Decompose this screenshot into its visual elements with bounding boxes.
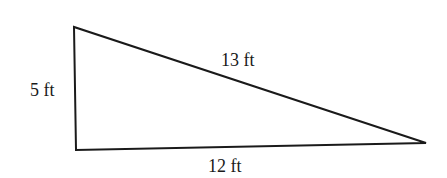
triangle-diagram: 5 ft 13 ft 12 ft <box>0 0 447 178</box>
right-triangle <box>74 27 426 150</box>
label-vertical-side: 5 ft <box>30 80 55 100</box>
label-hypotenuse: 13 ft <box>221 50 255 70</box>
label-base: 12 ft <box>208 156 242 176</box>
